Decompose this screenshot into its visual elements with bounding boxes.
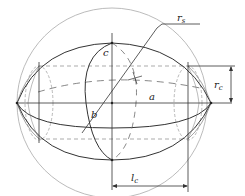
tip-curve-right-1 [188, 66, 211, 139]
label-a: a [149, 91, 155, 102]
rc-arrow-top [229, 66, 233, 71]
label-c: c [103, 47, 109, 58]
meridian-back [112, 43, 137, 160]
rc-arrow-bottom [229, 98, 233, 103]
ellipsoid-equator-front [17, 103, 211, 128]
rs-leader [157, 24, 200, 28]
point-center [111, 102, 113, 104]
lc-arrow-left [112, 184, 117, 188]
point-bottom [111, 159, 114, 162]
tick-mark [133, 72, 137, 84]
label-rs: rs [177, 12, 186, 25]
point-left-tip [16, 102, 19, 105]
lc-arrow-right [183, 184, 188, 188]
label-lc: lc [131, 172, 138, 185]
point-right-tip [210, 102, 213, 105]
label-rc: rc [214, 79, 223, 92]
meridian-front [85, 43, 112, 160]
ellipsoid-outline [17, 43, 211, 160]
ellipsoid-diagram: rs rc lc a b c [0, 0, 245, 196]
label-b: b [91, 109, 97, 120]
point-top [111, 42, 114, 45]
